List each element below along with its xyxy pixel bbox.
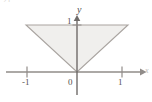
y-axis-label: y xyxy=(77,5,81,15)
tick-label-y-1: 1 xyxy=(67,17,72,26)
y-axis-arrowhead xyxy=(74,15,81,21)
math-figure: 21. y x 1 -1 0 1 xyxy=(0,0,152,102)
tick-label-x-neg1: -1 xyxy=(22,78,30,87)
x-axis-label: x xyxy=(145,67,149,75)
tick-label-x-0: 0 xyxy=(68,78,73,87)
tick-label-x-1: 1 xyxy=(118,78,123,87)
